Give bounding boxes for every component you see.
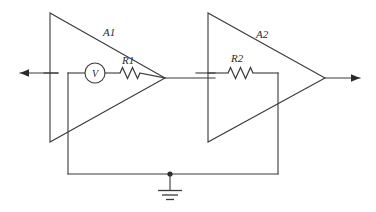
- circuit-diagram-canvas: A1 V R1 A2: [0, 0, 376, 212]
- resistor-r2: [228, 68, 253, 79]
- circuit-schematic-svg: A1 V R1 A2: [0, 0, 376, 212]
- a1-feedback-branch: V R1: [68, 54, 165, 174]
- ground-symbol: [158, 171, 182, 199]
- a2-feedback-branch: R2: [208, 52, 278, 174]
- resistor-r1: [120, 68, 140, 79]
- resistor-r2-label: R2: [230, 52, 244, 64]
- amplifier-a2: A2: [208, 13, 325, 142]
- amplifier-a1: A1: [50, 13, 165, 142]
- output-arrow: [325, 74, 360, 82]
- resistor-r1-label: R1: [121, 54, 134, 66]
- amplifier-a2-label: A2: [255, 28, 269, 40]
- amplifier-a1-label: A1: [102, 26, 115, 38]
